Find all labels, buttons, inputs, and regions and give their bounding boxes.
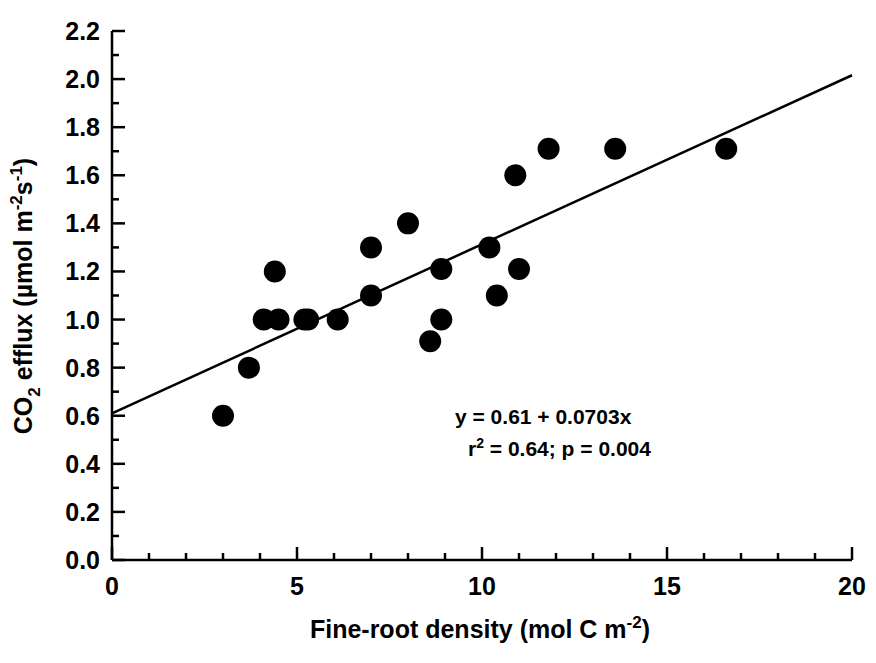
- data-point: [264, 260, 286, 282]
- x-axis-title-exponent: -2: [627, 613, 642, 632]
- y-axis-title-exponent-2: -1: [7, 166, 26, 181]
- y-axis-title: CO2 efflux (µmol m-2s-1): [7, 158, 44, 434]
- data-point: [430, 309, 452, 331]
- data-point: [268, 309, 290, 331]
- x-axis-title-main: Fine-root density (mol C m: [310, 615, 627, 643]
- y-tick-label: 2.0: [65, 65, 100, 93]
- data-point: [397, 212, 419, 234]
- data-point-group: [212, 138, 737, 427]
- data-point: [238, 357, 260, 379]
- data-point: [486, 285, 508, 307]
- data-point: [538, 138, 560, 160]
- y-tick-label: 0.6: [65, 402, 100, 430]
- x-tick-label: 0: [105, 572, 119, 600]
- x-axis-tick-labels: 05101520: [105, 572, 866, 600]
- scatter-plot-figure: 05101520 0.00.20.40.60.81.01.21.41.61.82…: [0, 0, 876, 663]
- x-tick-label: 10: [468, 572, 496, 600]
- regression-annotation: y = 0.61 + 0.0703x r2 = 0.64; p = 0.004: [455, 405, 651, 460]
- data-point: [478, 236, 500, 258]
- y-tick-label: 0.2: [65, 498, 100, 526]
- data-point: [604, 138, 626, 160]
- x-axis-title-tail: ): [642, 615, 650, 643]
- data-point: [508, 258, 530, 280]
- x-tick-label: 15: [653, 572, 681, 600]
- y-tick-label: 1.0: [65, 306, 100, 334]
- data-point: [504, 164, 526, 186]
- x-axis-title: Fine-root density (mol C m-2): [310, 613, 650, 643]
- annotation-r-symbol: r: [468, 437, 476, 460]
- y-tick-label: 0.4: [65, 450, 100, 478]
- data-point: [419, 330, 441, 352]
- chart-canvas: 05101520 0.00.20.40.60.81.01.21.41.61.82…: [0, 0, 876, 663]
- data-point: [360, 285, 382, 307]
- data-point: [715, 138, 737, 160]
- y-axis-title-subscript: 2: [25, 387, 44, 396]
- y-tick-label: 1.2: [65, 257, 100, 285]
- y-tick-label: 1.8: [65, 113, 100, 141]
- y-axis-title-tail: ): [9, 158, 37, 166]
- data-point: [212, 405, 234, 427]
- x-axis-ticks: [112, 547, 852, 560]
- y-axis-title-mid: efflux (µmol m: [9, 210, 37, 387]
- y-axis-tick-labels: 0.00.20.40.60.81.01.21.41.61.82.02.2: [65, 17, 100, 574]
- y-axis-title-lead: CO: [9, 397, 37, 435]
- y-axis-title-s: s: [9, 181, 37, 195]
- data-point: [360, 236, 382, 258]
- annotation-stats-rest: = 0.64; p = 0.004: [484, 437, 651, 460]
- data-point: [297, 309, 319, 331]
- y-tick-label: 2.2: [65, 17, 100, 45]
- x-tick-label: 5: [290, 572, 304, 600]
- y-tick-label: 0.8: [65, 354, 100, 382]
- y-axis-ticks: [112, 31, 125, 560]
- x-tick-label: 20: [838, 572, 866, 600]
- y-tick-label: 1.6: [65, 161, 100, 189]
- data-point: [430, 258, 452, 280]
- y-axis-title-exponent-1: -2: [7, 195, 26, 210]
- data-point: [327, 309, 349, 331]
- y-tick-label: 1.4: [65, 209, 100, 237]
- annotation-stats: r2 = 0.64; p = 0.004: [468, 435, 651, 460]
- annotation-equation: y = 0.61 + 0.0703x: [455, 405, 632, 428]
- y-tick-label: 0.0: [65, 546, 100, 574]
- axes: [112, 31, 852, 560]
- annotation-r-exponent: 2: [476, 435, 484, 451]
